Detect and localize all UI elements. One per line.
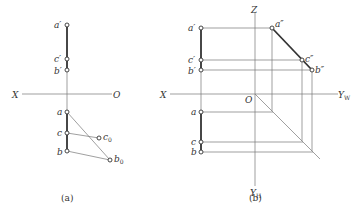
label-z-axis: Z [250, 5, 258, 15]
label-c-b: c [191, 137, 196, 147]
point-a-prime [65, 23, 69, 27]
label-c-dprime: c″ [305, 54, 314, 64]
point-a-prime-b [199, 26, 203, 30]
point-b [65, 149, 69, 153]
caption-b: (b) [249, 193, 262, 203]
label-a-prime-b: a′ [188, 23, 195, 33]
label-b0: b0 [114, 154, 124, 165]
label-b-dprime: b″ [315, 65, 325, 75]
projection-diagram: X O a′ c′ b′ a c b c0 b0 (a) [0, 0, 359, 214]
label-c0: c0 [103, 132, 112, 143]
label-a-a: a [57, 107, 62, 117]
point-a-dprime [270, 26, 274, 30]
label-c-a: c [57, 128, 62, 138]
label-x-axis-a: X [11, 90, 19, 100]
label-b-b: b [191, 147, 197, 157]
point-b-prime-b [199, 68, 203, 72]
point-c-prime [65, 57, 69, 61]
point-b-prime [65, 68, 69, 72]
label-a-dprime: a″ [275, 19, 284, 29]
point-c0 [97, 136, 101, 140]
figure-b: X Z O YW YH a′ c′ b′ a″ c″ b″ a c b (b) [159, 5, 351, 203]
caption-a: (a) [61, 193, 73, 203]
point-c-dprime [300, 58, 304, 62]
point-c-prime-b [199, 58, 203, 62]
label-c-prime-b: c′ [188, 55, 195, 65]
label-b-a: b [57, 147, 63, 157]
label-a-prime-a: a′ [54, 20, 61, 30]
point-a [65, 110, 69, 114]
label-yw-axis: YW [338, 90, 351, 101]
line-c-c0 [67, 133, 99, 138]
point-b-b [199, 150, 203, 154]
label-a-b: a [191, 107, 196, 117]
point-b-dprime [310, 68, 314, 72]
label-o-a: O [113, 90, 121, 100]
label-b-prime-b: b′ [188, 66, 196, 76]
label-c-prime-a: c′ [54, 54, 61, 64]
point-c-b [199, 140, 203, 144]
label-x-axis-b: X [159, 90, 167, 100]
label-b-prime-a: b′ [54, 66, 62, 76]
point-c [65, 131, 69, 135]
label-o-b: O [245, 95, 253, 105]
point-a-b [199, 110, 203, 114]
figure-a: X O a′ c′ b′ a c b c0 b0 (a) [11, 20, 124, 203]
point-b0 [108, 158, 112, 162]
diagonal-45 [255, 94, 320, 159]
